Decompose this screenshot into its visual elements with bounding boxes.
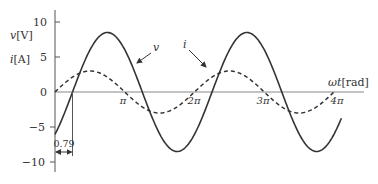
- i-label-arrow: [189, 50, 206, 67]
- y-tick-5: 5: [40, 51, 47, 64]
- x-axis-label: ωt[rad]: [328, 76, 369, 89]
- x-tick-2pi: 2π: [187, 95, 201, 106]
- y-tick-0: 0: [40, 86, 47, 99]
- chart-container: 10 5 0 −5 −10 v[V] i[A] π 2π 3π 4π ωt[ra…: [0, 0, 378, 184]
- y-tick-minus-10: −10: [22, 156, 45, 169]
- y-tick-10: 10: [33, 16, 47, 29]
- v-label-arrow: [137, 53, 151, 63]
- phase-shift-label: 0.79: [53, 138, 74, 149]
- y-tick-minus-5: −5: [29, 121, 45, 134]
- x-tick-pi: π: [119, 95, 127, 106]
- v-series-label: v: [153, 41, 160, 54]
- waveform-chart: 10 5 0 −5 −10 v[V] i[A] π 2π 3π 4π ωt[ra…: [0, 0, 378, 184]
- y-label-current: i[A]: [10, 53, 30, 66]
- y-label-voltage: v[V]: [10, 29, 33, 42]
- i-series-label: i: [183, 38, 187, 51]
- x-tick-3pi: 3π: [257, 95, 270, 106]
- x-tick-4pi: 4π: [330, 95, 344, 106]
